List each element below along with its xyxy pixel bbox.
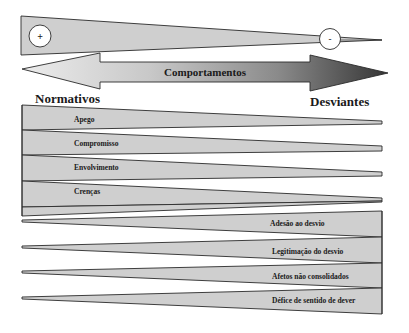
normative-factors: Apego Compromisso Envolvimento Crenças: [22, 105, 382, 216]
minus-label: -: [329, 34, 332, 44]
arrow-label: Comportamentos: [164, 66, 247, 78]
factor-label-apego: Apego: [74, 115, 95, 124]
wedge-adesao: [22, 211, 382, 237]
factor-label-defice: Défice de sentido de dever: [272, 296, 356, 305]
social-control-diagram: + - Comportamentos Normativos Desviantes…: [0, 0, 409, 333]
plus-label: +: [37, 31, 43, 42]
factor-label-afetos: Afetos não consolidados: [272, 272, 349, 281]
factor-label-crencas: Crenças: [74, 187, 100, 196]
minus-circle-icon: -: [320, 29, 341, 50]
deviant-label: Desviantes: [310, 94, 369, 109]
deviant-factors: Adesão ao desvio Legitimação do desvio A…: [22, 211, 382, 314]
factor-label-compromisso: Compromisso: [74, 139, 119, 148]
plus-circle-icon: +: [29, 25, 51, 47]
normative-label: Normativos: [35, 91, 100, 106]
factor-label-adesao: Adesão ao desvio: [270, 219, 325, 228]
factor-label-legitimacao: Legitimação do desvio: [272, 247, 343, 256]
behaviour-arrow: Comportamentos: [22, 53, 388, 91]
intensity-scale-wedge: + -: [21, 16, 382, 55]
factor-label-envolvimento: Envolvimento: [74, 163, 119, 172]
